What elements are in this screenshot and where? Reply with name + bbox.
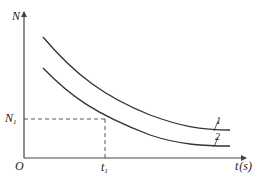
t1-label: t1 — [101, 160, 108, 175]
x-axis-label: t(s) — [235, 159, 252, 173]
chart-canvas: N N1 O t1 t(s) 1 2 — [0, 0, 260, 182]
curve-2 — [43, 68, 230, 146]
n1-label: N1 — [4, 111, 17, 126]
y-axis-label: N — [11, 9, 21, 23]
curve-1-label: 1 — [216, 115, 221, 126]
curve-1 — [43, 37, 230, 130]
curve-2-label: 2 — [215, 131, 220, 142]
origin-label: O — [15, 159, 24, 173]
